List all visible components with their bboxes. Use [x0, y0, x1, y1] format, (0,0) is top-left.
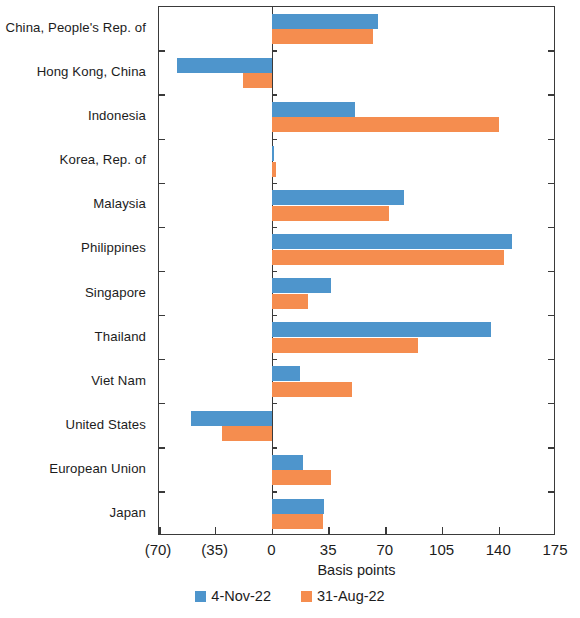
- bar: [272, 146, 274, 161]
- category-tick: [159, 139, 165, 140]
- bar: [191, 411, 272, 426]
- bar: [272, 382, 351, 397]
- x-axis-tick: [442, 527, 443, 534]
- category-tick: [548, 94, 554, 95]
- zero-line-tick: [272, 315, 277, 316]
- category-tick: [159, 50, 165, 51]
- bar: [272, 14, 377, 29]
- bar: [272, 514, 322, 529]
- x-tick-label: 140: [486, 540, 511, 560]
- zero-line-tick: [272, 227, 277, 228]
- plot-area: [158, 6, 555, 535]
- legend-swatch-icon: [195, 591, 206, 602]
- plot-inner: [159, 7, 554, 534]
- x-tick-label: 105: [429, 540, 454, 560]
- category-tick: [159, 491, 165, 492]
- bar: [272, 29, 372, 44]
- category-tick: [548, 447, 554, 448]
- bar: [272, 455, 303, 470]
- x-axis-tick: [499, 527, 500, 534]
- bar: [272, 322, 491, 337]
- zero-line-tick: [272, 359, 277, 360]
- zero-line-tick: [272, 447, 277, 448]
- x-axis-tick: [328, 527, 329, 534]
- x-tick-label: 175: [542, 540, 567, 560]
- category-tick: [159, 359, 165, 360]
- category-tick: [159, 227, 165, 228]
- category-tick: [159, 183, 165, 184]
- category-tick: [159, 94, 165, 95]
- x-tick-label: (35): [201, 540, 228, 560]
- bar: [272, 366, 300, 381]
- category-tick: [548, 315, 554, 316]
- bar: [222, 426, 272, 441]
- category-tick: [548, 403, 554, 404]
- category-label: Philippines: [0, 241, 146, 255]
- bar: [272, 250, 504, 265]
- category-tick: [548, 491, 554, 492]
- category-label: China, People's Rep. of: [0, 21, 146, 35]
- x-axis-tick: [215, 527, 216, 534]
- legend-label: 31-Aug-22: [317, 588, 385, 604]
- chart-legend: 4-Nov-2231-Aug-22: [0, 588, 580, 604]
- zero-line-tick: [272, 139, 277, 140]
- category-tick: [159, 315, 165, 316]
- bar: [272, 294, 308, 309]
- category-tick: [548, 139, 554, 140]
- category-tick: [548, 183, 554, 184]
- zero-line-tick: [272, 50, 277, 51]
- x-tick-label: (70): [145, 540, 172, 560]
- bar: [272, 338, 418, 353]
- x-tick-label: 70: [377, 540, 394, 560]
- category-label: Viet Nam: [0, 374, 146, 388]
- bar: [243, 73, 272, 88]
- bar: [272, 102, 355, 117]
- bar: [272, 206, 389, 221]
- bar: [272, 499, 324, 514]
- category-axis-labels: China, People's Rep. ofHong Kong, ChinaI…: [0, 6, 152, 535]
- legend-item[interactable]: 4-Nov-22: [195, 588, 271, 604]
- zero-line-tick: [272, 491, 277, 492]
- category-tick: [548, 50, 554, 51]
- x-axis-title: Basis points: [158, 562, 555, 578]
- category-tick: [548, 359, 554, 360]
- category-label: Thailand: [0, 330, 146, 344]
- zero-line-tick: [272, 403, 277, 404]
- bar-chart: China, People's Rep. ofHong Kong, ChinaI…: [0, 0, 580, 618]
- zero-line-tick: [272, 271, 277, 272]
- legend-item[interactable]: 31-Aug-22: [301, 588, 385, 604]
- x-tick-label: 35: [320, 540, 337, 560]
- x-axis-tick-labels: (70)(35)03570105140175: [0, 540, 580, 562]
- category-tick: [548, 271, 554, 272]
- x-axis-tick: [385, 527, 386, 534]
- legend-swatch-icon: [301, 591, 312, 602]
- category-label: Indonesia: [0, 109, 146, 123]
- category-label: Korea, Rep. of: [0, 153, 146, 167]
- category-label: Malaysia: [0, 197, 146, 211]
- x-tick-label: 0: [267, 540, 275, 560]
- bar: [177, 58, 273, 73]
- bar: [272, 278, 330, 293]
- legend-label: 4-Nov-22: [211, 588, 271, 604]
- category-label: Hong Kong, China: [0, 65, 146, 79]
- category-label: European Union: [0, 462, 146, 476]
- bar: [272, 234, 512, 249]
- category-label: United States: [0, 418, 146, 432]
- category-tick: [159, 447, 165, 448]
- x-axis-tick: [159, 527, 160, 534]
- bar: [272, 190, 403, 205]
- zero-line-tick: [272, 94, 277, 95]
- category-label: Japan: [0, 506, 146, 520]
- category-label: Singapore: [0, 286, 146, 300]
- bar: [272, 117, 499, 132]
- zero-line-tick: [272, 183, 277, 184]
- bar: [272, 162, 275, 177]
- bar: [272, 470, 330, 485]
- category-tick: [159, 271, 165, 272]
- category-tick: [548, 227, 554, 228]
- category-tick: [159, 403, 165, 404]
